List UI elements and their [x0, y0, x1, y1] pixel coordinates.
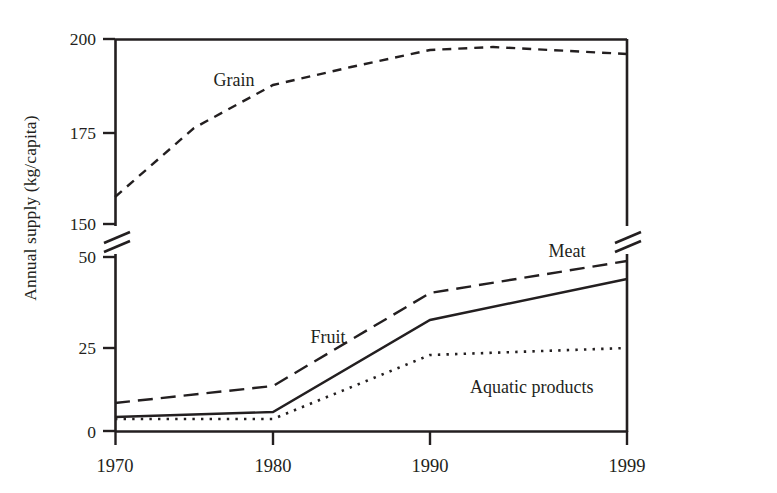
series-label-fruit: Fruit [310, 327, 345, 347]
x-axis-ticks [116, 431, 628, 445]
x-tick-label-1980: 1980 [255, 456, 292, 476]
y-tick-label-200: 200 [70, 29, 97, 49]
x-tick-label-1970: 1970 [97, 456, 134, 476]
y-tick-label-50: 50 [79, 247, 97, 267]
y-tick-label-150: 150 [70, 214, 97, 234]
x-tick-label-1990: 1990 [412, 456, 449, 476]
series-label-grain: Grain [214, 70, 255, 90]
x-tick-label-1999: 1999 [609, 456, 646, 476]
series-line-grain [115, 47, 627, 197]
y-tick-label-0: 0 [87, 422, 96, 442]
series-label-aquatic-products: Aquatic products [470, 377, 593, 397]
axis-break-right-icon [615, 226, 641, 254]
axis-break-left-icon [104, 226, 130, 254]
chart-container: Annual supply (kg/capita) 200 175 150 50… [0, 0, 777, 493]
series-label-meat: Meat [549, 241, 586, 261]
chart-canvas: 200 175 150 50 25 0 1970 1980 1990 1999 [0, 0, 777, 493]
y-tick-label-175: 175 [70, 123, 97, 143]
y-tick-label-25: 25 [79, 338, 97, 358]
plot-frame [115, 39, 627, 432]
